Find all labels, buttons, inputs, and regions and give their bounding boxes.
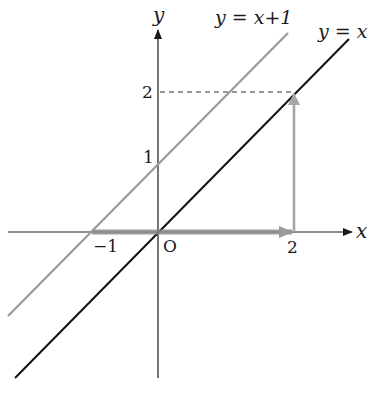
line-y-equals-x bbox=[15, 39, 349, 378]
coordinate-graph: y x O −1 2 1 2 y = x+1 y = x bbox=[0, 0, 377, 395]
origin-label: O bbox=[163, 236, 177, 256]
x-tick-label-2: 2 bbox=[287, 237, 298, 257]
line-y-equals-x-plus-1 bbox=[8, 33, 288, 316]
graph-svg: y x O −1 2 1 2 y = x+1 y = x bbox=[0, 0, 377, 395]
y-tick-label-1: 1 bbox=[143, 147, 154, 167]
line-label-y-equals-x-plus-1: y = x+1 bbox=[214, 6, 292, 28]
x-axis-label: x bbox=[356, 219, 367, 243]
x-tick-label-neg1: −1 bbox=[93, 236, 118, 256]
line-label-y-equals-x: y = x bbox=[317, 20, 368, 42]
y-tick-label-2: 2 bbox=[142, 82, 153, 102]
y-axis-label: y bbox=[152, 3, 165, 27]
